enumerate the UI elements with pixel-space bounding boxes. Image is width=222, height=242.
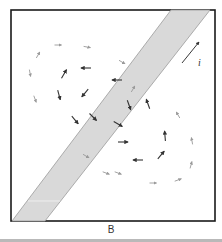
- magnetic-field-diagram: i: [0, 0, 222, 242]
- figure-caption: B: [0, 224, 222, 235]
- current-label: i: [198, 57, 201, 68]
